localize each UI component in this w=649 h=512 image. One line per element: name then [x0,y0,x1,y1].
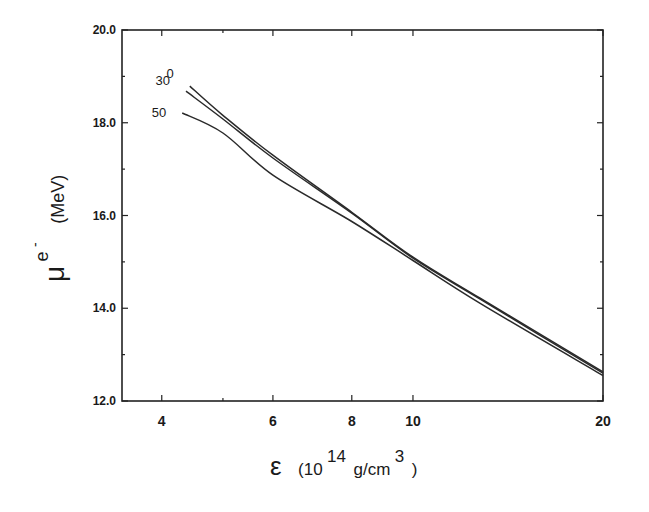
curve-series-0 [190,86,603,372]
data-curves [182,86,603,375]
y-tick-label: 18.0 [93,116,117,130]
y-axis-title: μ e - (MeV) [26,175,70,282]
y-tick-labels: 12.014.016.018.020.0 [93,23,117,408]
series-label-30: 30 [156,73,170,88]
x-tick-label: 10 [405,413,421,429]
plot-frame [122,30,603,401]
curve-series-30 [186,91,603,373]
chart: 12.014.016.018.020.0 4681020 03050 ε (10… [0,0,649,512]
x-tick-label: 8 [348,413,356,429]
x-axis-title: ε (10 14 g/cm 3 ) [270,447,417,481]
y-tick-label: 12.0 [93,394,117,408]
x-tick-label: 20 [595,413,611,429]
series-label-50: 50 [152,105,166,120]
series-labels: 03050 [152,66,174,120]
y-tick-label: 16.0 [93,209,117,223]
x-tick-label: 4 [158,413,166,429]
svg-text:μ e - (MeV): μ e - (MeV) [26,175,70,282]
x-tick-label: 6 [269,413,277,429]
x-tick-labels: 4681020 [158,413,611,429]
y-tick-label: 14.0 [93,301,117,315]
y-tick-label: 20.0 [93,23,117,37]
axis-ticks [122,30,603,401]
